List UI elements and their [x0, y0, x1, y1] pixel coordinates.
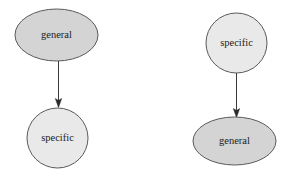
diagram-canvas: general specific specific	[0, 0, 287, 178]
edge-general-to-specific	[55, 61, 61, 108]
node-specific-bottom[interactable]: specific	[27, 108, 88, 168]
node-general-top[interactable]: general	[15, 9, 98, 61]
node-specific-top[interactable]: specific	[206, 13, 267, 73]
concept-hierarchy-diagram: general specific specific	[0, 0, 287, 178]
diagram-general-to-specific: general specific	[15, 9, 98, 168]
edge-specific-to-general	[233, 73, 239, 118]
diagram-specific-to-general: specific general	[193, 13, 276, 165]
node-label-general-top: general	[41, 29, 72, 40]
node-label-general-bottom: general	[219, 135, 250, 146]
node-general-bottom[interactable]: general	[193, 117, 276, 165]
node-label-specific-bottom: specific	[41, 132, 74, 143]
node-label-specific-top: specific	[220, 37, 253, 48]
